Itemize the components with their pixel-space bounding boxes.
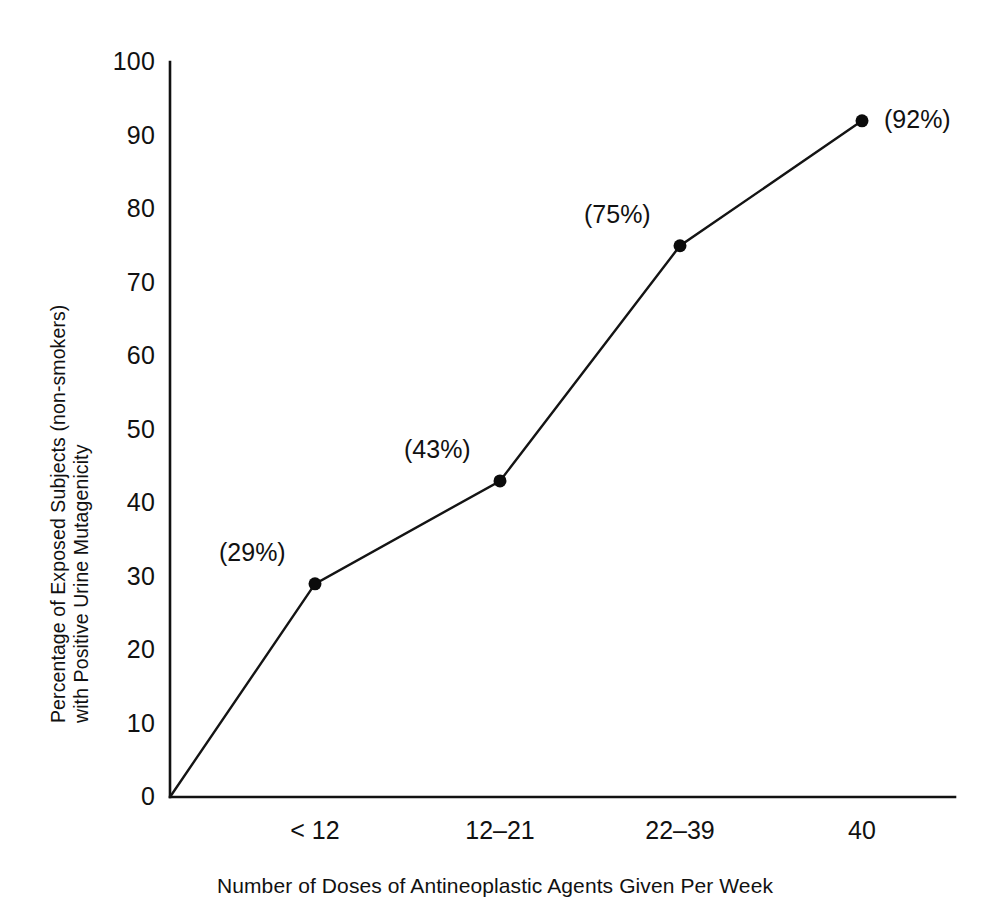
data-point-marker [674, 239, 687, 252]
chart-figure: Percentage of Exposed Subjects (non-smok… [0, 0, 990, 904]
data-point-label-43: (43%) [404, 437, 471, 462]
x-tick-label-12-21: 12–21 [465, 818, 535, 843]
data-point-label-92: (92%) [884, 107, 951, 132]
series-markers [309, 114, 869, 590]
x-tick-label-22-39: 22–39 [645, 818, 715, 843]
x-axis-title: Number of Doses of Antineoplastic Agents… [0, 873, 990, 899]
plot-area [0, 0, 990, 904]
series-line [170, 121, 862, 797]
data-point-marker [494, 474, 507, 487]
x-tick-label-40: 40 [848, 818, 876, 843]
data-point-marker [309, 577, 322, 590]
data-point-label-75: (75%) [584, 202, 651, 227]
data-point-marker [856, 114, 869, 127]
x-tick-label-lt12: < 12 [290, 818, 339, 843]
data-point-label-29: (29%) [219, 540, 286, 565]
